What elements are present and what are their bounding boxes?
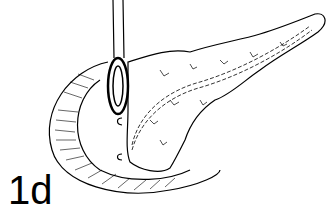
pancreas-body — [127, 14, 325, 172]
duodenum-outer — [49, 62, 220, 193]
ampulla — [118, 118, 123, 160]
bile-duct — [113, 0, 124, 58]
figure-label: 1d — [8, 170, 53, 210]
